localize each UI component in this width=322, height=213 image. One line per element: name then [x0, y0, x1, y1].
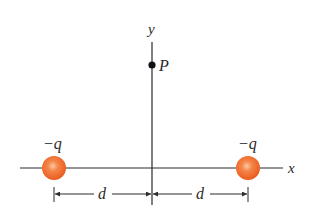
point-p-label: P — [158, 57, 169, 74]
charge-left-label: −q — [43, 135, 62, 153]
charge-right-sphere — [236, 156, 260, 180]
dimension-left-label: d — [98, 185, 107, 202]
dimension-right-label: d — [196, 185, 205, 202]
dimension-right: d — [153, 185, 247, 202]
charge-right: −q — [236, 135, 260, 180]
point-p-dot — [148, 61, 155, 68]
charge-left: −q — [42, 135, 66, 180]
y-axis-label: y — [146, 21, 155, 37]
charge-right-label: −q — [238, 135, 257, 153]
dimension-left: d — [55, 185, 151, 202]
dimension-lines: d d — [54, 185, 248, 202]
charge-diagram: y x P −q −q d d — [0, 0, 322, 213]
x-axis-label: x — [287, 160, 295, 176]
charge-left-sphere — [42, 156, 66, 180]
y-axis: y — [146, 21, 155, 205]
